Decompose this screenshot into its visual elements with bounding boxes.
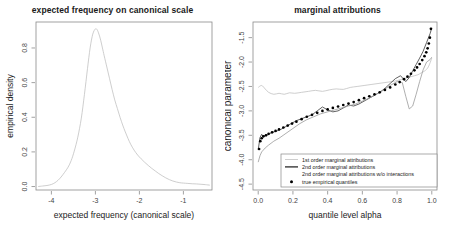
data-point (282, 126, 285, 129)
data-point (389, 86, 392, 89)
data-point (398, 81, 401, 84)
y-tick-label: -2.5 (238, 80, 245, 92)
x-axis: 0.00.20.40.60.81.0quantile level alpha (253, 191, 436, 220)
data-point (358, 99, 361, 102)
x-tick-label: 0.8 (392, 197, 402, 204)
legend: 1st order marginal attributions2nd order… (281, 154, 437, 187)
data-point (331, 107, 334, 110)
data-point (267, 132, 270, 135)
legend-item-label: 1st order marginal attributions (302, 157, 374, 163)
y-tick-label: 0.0 (21, 182, 28, 192)
data-point (291, 122, 294, 125)
series-line-0 (38, 29, 210, 187)
x-tick-label: 0.4 (323, 197, 333, 204)
y-tick-label: -3.0 (238, 105, 245, 117)
x-axis: -4-3-2-1expected frequency (canonical sc… (48, 191, 194, 220)
y-tick-label: 0.6 (21, 78, 28, 88)
series-group (38, 29, 210, 187)
data-point (406, 75, 409, 78)
y-tick-label: 0.2 (21, 147, 28, 157)
data-point (363, 97, 366, 100)
data-point (421, 59, 424, 62)
data-point (278, 128, 281, 131)
data-point (368, 95, 371, 98)
figure-container: expected frequency on canonical scale -4… (0, 0, 450, 235)
legend-item-label: true empirical quantiles (302, 179, 358, 185)
x-tick-label: -1 (180, 197, 186, 204)
y-tick-label: 0.8 (21, 43, 28, 53)
data-point (429, 36, 432, 39)
data-point (347, 102, 350, 105)
data-point (311, 113, 314, 116)
data-point (265, 134, 268, 137)
data-point (378, 91, 381, 94)
legend-item-label: 2nd order marginal attributions (302, 164, 375, 170)
y-axis-title: canonical parameter (225, 60, 233, 151)
data-point (316, 111, 319, 114)
plot-area: -4-3-2-1expected frequency (canonical sc… (5, 22, 212, 220)
legend-item: 2nd order marginal attributions w/o inte… (302, 171, 414, 177)
data-point (274, 130, 277, 133)
panel-density: expected frequency on canonical scale -4… (0, 0, 225, 235)
data-point (373, 93, 376, 96)
y-axis: -1.5-2.0-2.5-3.0-3.5-4.0-4.5canonical pa… (225, 31, 252, 190)
data-point (295, 120, 298, 123)
x-tick-label: -3 (92, 197, 98, 204)
panel-attributions: marginal attributions 0.00.20.40.60.81.0… (225, 0, 450, 235)
series-group (258, 27, 433, 162)
data-point (384, 89, 387, 92)
data-point (394, 83, 397, 86)
x-axis-title: expected frequency (canonical scale) (54, 210, 194, 220)
data-point (259, 140, 262, 143)
density-plot-svg: -4-3-2-1expected frequency (canonical sc… (0, 0, 225, 235)
plot-frame (36, 22, 212, 190)
y-tick-label: -3.5 (238, 129, 245, 141)
data-point (426, 47, 429, 50)
data-point (352, 101, 355, 104)
data-point (262, 135, 265, 138)
data-point (271, 131, 274, 134)
series-line-2 (258, 57, 432, 162)
data-point (418, 63, 421, 66)
data-point (321, 110, 324, 113)
data-point (258, 148, 261, 151)
y-tick-label: -1.5 (238, 31, 245, 43)
data-point (410, 72, 413, 75)
data-point (342, 104, 345, 107)
data-point (430, 27, 433, 30)
y-tick-label: 0.4 (21, 112, 28, 122)
x-tick-label: 0.0 (253, 197, 263, 204)
legend-point-swatch (290, 180, 293, 183)
data-point (326, 108, 329, 111)
data-point (300, 118, 303, 121)
data-point (403, 78, 406, 81)
y-axis-title: empirical density (5, 74, 15, 138)
series-line-0 (258, 58, 432, 94)
data-point (337, 105, 340, 108)
data-point (286, 124, 289, 127)
x-axis-title: quantile level alpha (309, 210, 382, 220)
x-tick-label: -4 (48, 197, 54, 204)
data-point (413, 69, 416, 72)
data-point (416, 66, 419, 69)
x-tick-label: 1.0 (427, 197, 437, 204)
x-tick-label: 0.6 (357, 197, 367, 204)
data-point (305, 115, 308, 118)
y-tick-label: -2.0 (238, 56, 245, 68)
data-point (423, 55, 426, 58)
y-tick-label: -4.0 (238, 154, 245, 166)
attributions-plot-svg: 0.00.20.40.60.81.0quantile level alpha-1… (225, 0, 450, 235)
y-axis: 0.00.20.40.60.8empirical density (5, 43, 35, 191)
y-tick-label: -4.5 (238, 178, 245, 190)
x-tick-label: -2 (136, 197, 142, 204)
data-point (425, 51, 428, 54)
x-tick-label: 0.2 (288, 197, 298, 204)
legend-item-label: 2nd order marginal attributions w/o inte… (302, 171, 414, 177)
plot-area: 0.00.20.40.60.81.0quantile level alpha-1… (225, 22, 437, 220)
data-point (427, 42, 430, 45)
